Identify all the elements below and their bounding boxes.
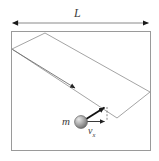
physics-diagram bbox=[0, 0, 159, 161]
boundary-box bbox=[12, 32, 151, 151]
velocity-label: vx bbox=[88, 126, 95, 139]
length-label: L bbox=[74, 7, 81, 19]
slope-direction-arrow bbox=[13, 50, 76, 89]
velocity-subscript: x bbox=[92, 131, 95, 138]
inclined-plane-parallelogram bbox=[12, 33, 150, 118]
mass-label: m bbox=[62, 116, 70, 127]
mass-sphere bbox=[75, 116, 88, 129]
